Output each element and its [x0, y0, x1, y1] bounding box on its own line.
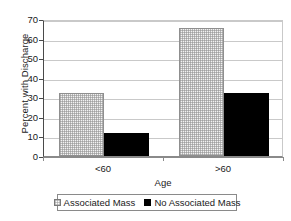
y-tick-label: 30: [2, 93, 38, 103]
chart-legend: Associated MassNo Associated Mass: [57, 194, 237, 211]
y-tick-mark: [39, 20, 43, 21]
y-axis-tick-labels: 010203040506070: [0, 0, 38, 221]
legend-item: Associated Mass: [54, 197, 136, 208]
y-tick-mark: [39, 118, 43, 119]
x-tick-label: >60: [193, 163, 253, 174]
x-tick-mark: [43, 157, 44, 161]
y-tick-label: 50: [2, 54, 38, 64]
y-tick-mark: [39, 79, 43, 80]
black-square-swatch-icon: [144, 199, 151, 206]
y-tick-label: 70: [2, 15, 38, 25]
legend-item: No Associated Mass: [144, 197, 240, 208]
bar-chart: Percent with Discharge 010203040506070 <…: [0, 0, 291, 221]
bar-no-associated-mass-0: [104, 133, 149, 156]
y-tick-label: 10: [2, 132, 38, 142]
bar-associated-mass-1: [179, 28, 224, 156]
hatched-square-swatch-icon: [54, 199, 61, 206]
bar-no-associated-mass-1: [224, 93, 269, 156]
x-tick-mark: [283, 157, 284, 161]
x-axis-title: Age: [43, 177, 283, 188]
y-tick-mark: [39, 59, 43, 60]
legend-label: Associated Mass: [64, 197, 136, 208]
x-tick-label: <60: [73, 163, 133, 174]
y-tick-label: 0: [2, 152, 38, 162]
y-tick-mark: [39, 137, 43, 138]
x-tick-mark: [163, 157, 164, 161]
y-tick-label: 40: [2, 74, 38, 84]
y-tick-mark: [39, 40, 43, 41]
y-tick-label: 60: [2, 35, 38, 45]
legend-label: No Associated Mass: [154, 197, 240, 208]
bars-layer: [44, 21, 282, 156]
bar-associated-mass-0: [59, 93, 104, 156]
y-tick-mark: [39, 98, 43, 99]
plot-area: [43, 20, 283, 157]
y-tick-label: 20: [2, 113, 38, 123]
